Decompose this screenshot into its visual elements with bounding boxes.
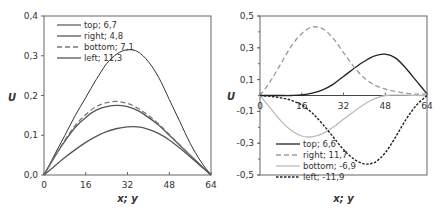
y-tick-label: 0,3 [24, 51, 38, 61]
x-tick-label: 0 [257, 101, 263, 111]
x-tick-label: 16 [80, 180, 92, 190]
y-tick-label: -0,5 [236, 170, 254, 180]
x-tick-label: 0 [41, 180, 47, 190]
y-tick-label: 0,5 [240, 11, 254, 21]
legend-label: right; 11,7 [303, 150, 347, 160]
series-line-right [260, 27, 427, 96]
legend: top; 6,6right; 11,7bottom; -6,9left; -11… [276, 139, 356, 182]
legend: top; 6,7right; 4,8bottom; 7,1left; 11,3 [57, 20, 134, 63]
x-axis-label: x; y [332, 193, 354, 204]
x-tick-label: 48 [164, 180, 176, 190]
x-tick-label: 48 [380, 101, 392, 111]
series-line-bottom [44, 101, 211, 175]
series-line-top [44, 50, 211, 175]
y-tick-label: 0,3 [240, 43, 254, 53]
left-chart: 0,00,10,20,30,4016324864x; yUtop; 6,7rig… [8, 11, 217, 204]
y-axis-label: U [227, 91, 235, 102]
y-tick-label: -0,1 [236, 106, 254, 116]
y-tick-label: 0,0 [24, 170, 39, 180]
chart-figure: 0,00,10,20,30,4016324864x; yUtop; 6,7rig… [0, 0, 442, 216]
y-tick-label: 0,4 [24, 11, 39, 21]
y-tick-label: 0,1 [24, 130, 38, 140]
y-tick-label: 0,1 [240, 75, 254, 85]
legend-label: bottom; -6,9 [303, 161, 356, 171]
x-tick-label: 32 [338, 101, 349, 111]
legend-label: left; 11,3 [84, 53, 122, 63]
y-tick-label: -0,3 [236, 138, 254, 148]
legend-label: right; 4,8 [84, 31, 123, 41]
x-tick-label: 64 [421, 101, 433, 111]
legend-label: bottom; 7,1 [84, 42, 134, 52]
series-line-right [44, 105, 211, 175]
legend-label: left; -11,9 [303, 172, 344, 182]
x-axis-label: x; y [116, 193, 138, 204]
series-line-top [260, 54, 427, 95]
legend-label: top; 6,6 [303, 139, 336, 149]
x-tick-label: 64 [205, 180, 217, 190]
x-tick-label: 16 [296, 101, 308, 111]
y-axis-label: U [8, 92, 16, 103]
right-chart: 0,50,30,1-0,1-0,3-0,5016324864x; yUtop; … [227, 11, 433, 204]
legend-label: top; 6,7 [84, 20, 117, 30]
y-tick-label: 0,2 [24, 91, 38, 101]
x-tick-label: 32 [122, 180, 133, 190]
